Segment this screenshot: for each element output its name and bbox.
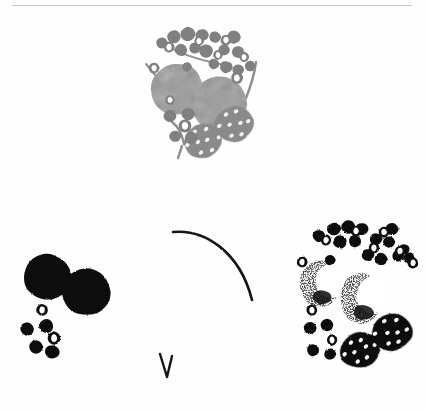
berry-ring: [297, 257, 308, 268]
berry-ring: [48, 331, 61, 344]
berry-shape: [180, 27, 195, 41]
berry-shape: [199, 44, 213, 57]
curved-stem-mark: [173, 232, 252, 300]
berry-shape: [167, 30, 181, 43]
berry-ring: [321, 235, 331, 246]
berry-shape: [307, 344, 319, 356]
berry-shape: [220, 61, 233, 73]
berry-ring: [231, 72, 243, 84]
berry-shape: [175, 44, 188, 56]
panel-high-contrast-black-cluster: [20, 254, 110, 359]
panel-halftone-specimen-cluster: [297, 220, 418, 374]
berry-ring: [327, 334, 337, 345]
berry-shape: [29, 340, 43, 353]
berry-ring: [395, 246, 406, 256]
specimen-figure: [0, 0, 425, 411]
berry-shape: [304, 322, 317, 334]
panel-grayscale-specimen-cluster: [146, 27, 258, 163]
berry-shape: [39, 319, 53, 333]
berry-shape: [375, 253, 388, 265]
berry-ring: [36, 304, 48, 316]
berry-shape: [209, 31, 221, 42]
stem-line: [178, 146, 182, 158]
berry-shape: [325, 255, 336, 265]
berry-shape: [20, 322, 34, 335]
berry-shape: [383, 237, 395, 248]
berry-shape: [349, 235, 361, 247]
berry-shape: [324, 349, 336, 360]
berry-shape: [333, 235, 347, 248]
berry-ring: [149, 63, 160, 74]
figure-canvas: [0, 0, 425, 411]
berry-shape: [321, 319, 334, 331]
v-tick-mark: [160, 354, 172, 377]
berry-shape: [45, 345, 60, 358]
large-circle-shape: [62, 268, 111, 314]
berry-shape: [209, 59, 220, 69]
berry-ring: [221, 35, 232, 46]
berry-ring: [179, 119, 192, 132]
berry-shape: [327, 223, 341, 235]
